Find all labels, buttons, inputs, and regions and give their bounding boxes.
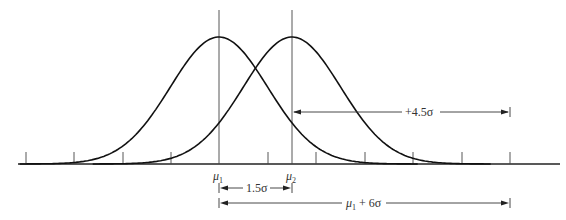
dimension-mu1-plus-6-sigma: μ1 + 6σ — [219, 196, 510, 212]
mu1-label: μ1 — [212, 169, 223, 185]
dimension-plus-4-5-sigma: +4.5σ — [293, 105, 510, 119]
svg-text:+4.5σ: +4.5σ — [405, 105, 434, 119]
mu2-label: μ2 — [285, 169, 296, 185]
svg-text:μ1 + 6σ: μ1 + 6σ — [345, 196, 382, 212]
svg-text:1.5σ: 1.5σ — [246, 181, 268, 195]
six-sigma-shift-diagram: μ1 μ2 +4.5σ 1.5σ μ1 + 6σ — [0, 0, 566, 220]
dimension-1-5-sigma: 1.5σ — [219, 181, 292, 195]
